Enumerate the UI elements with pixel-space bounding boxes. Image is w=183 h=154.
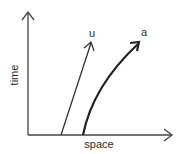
- x-axis-label: space: [84, 138, 113, 150]
- time-axis: [22, 12, 34, 135]
- worldline-a: [83, 42, 139, 135]
- y-axis-label: time: [8, 65, 20, 86]
- worldline-u-label: u: [89, 27, 95, 39]
- worldline-u: [61, 42, 94, 135]
- worldline-a-label: a: [141, 26, 148, 38]
- spacetime-diagram: u a time space: [0, 0, 183, 154]
